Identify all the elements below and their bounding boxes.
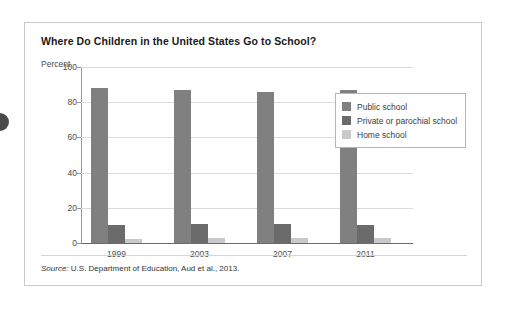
legend-item: Private or parochial school: [342, 114, 457, 127]
bar: [357, 225, 374, 243]
x-tick-label: 2011: [356, 249, 374, 259]
x-tick-label: 1999: [107, 249, 126, 259]
x-tick-label: 2003: [190, 249, 209, 259]
page-edge-artifact: [0, 113, 9, 131]
legend-swatch-icon: [342, 102, 351, 111]
bar-group-2003: [174, 67, 225, 243]
bar: [274, 224, 291, 243]
y-tick-mark: [77, 173, 81, 174]
bar: [125, 239, 142, 243]
y-tick-label: 80: [33, 97, 77, 107]
bar: [174, 90, 191, 243]
source-divider: [41, 255, 467, 256]
source-label: Source:: [41, 264, 69, 273]
y-tick-label: 40: [33, 168, 77, 178]
x-tick-label: 2007: [273, 249, 292, 259]
bar: [108, 225, 125, 243]
bar: [374, 238, 391, 243]
bar-group-1999: [91, 67, 142, 243]
source-citation: U.S. Department of Education, Aud et al.…: [69, 264, 240, 273]
legend-label: Private or parochial school: [357, 116, 457, 126]
y-tick-mark: [77, 67, 81, 68]
bar: [91, 88, 108, 243]
legend-label: Home school: [357, 130, 407, 140]
y-tick-label: 0: [33, 238, 77, 248]
chart-legend: Public schoolPrivate or parochial school…: [335, 93, 466, 148]
bar: [208, 238, 225, 243]
y-tick-label: 100: [33, 62, 77, 72]
figure-card: Where Do Children in the United States G…: [24, 22, 482, 286]
x-axis-line: [81, 243, 413, 244]
y-tick-mark: [77, 243, 81, 244]
legend-swatch-icon: [342, 116, 351, 125]
legend-label: Public school: [357, 102, 407, 112]
bar: [291, 238, 308, 243]
source-note: Source: U.S. Department of Education, Au…: [41, 264, 239, 273]
bar-group-2007: [257, 67, 308, 243]
legend-item: Home school: [342, 128, 457, 141]
y-tick-mark: [77, 208, 81, 209]
bar: [191, 224, 208, 243]
bar-chart: Percent 020406080100 1999200320072011 Pu…: [25, 23, 483, 287]
bar: [257, 92, 274, 243]
y-tick-mark: [77, 102, 81, 103]
legend-swatch-icon: [342, 130, 351, 139]
y-tick-label: 60: [33, 132, 77, 142]
legend-item: Public school: [342, 100, 457, 113]
y-tick-mark: [77, 137, 81, 138]
y-tick-label: 20: [33, 203, 77, 213]
